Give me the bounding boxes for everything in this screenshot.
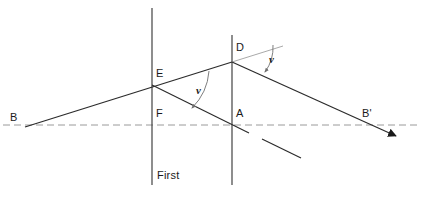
point-label-b-prime: B' — [362, 107, 372, 119]
point-label-e: E — [156, 67, 164, 79]
point-label-b: B — [10, 111, 18, 123]
secondary-ray-continuation — [262, 139, 301, 158]
diagram-canvas — [0, 0, 421, 197]
point-label-d: D — [236, 41, 244, 53]
first-focal-plane-caption: First focal plane — [157, 142, 185, 197]
optics-ray-diagram: B E F A D B' v v First focal plane — [0, 0, 421, 197]
point-label-f: F — [156, 107, 163, 119]
caption-line-1: First — [157, 169, 185, 183]
angle-label-v-right: v — [269, 53, 274, 65]
angle-label-v-left: v — [196, 84, 201, 96]
point-label-a: A — [236, 107, 244, 119]
